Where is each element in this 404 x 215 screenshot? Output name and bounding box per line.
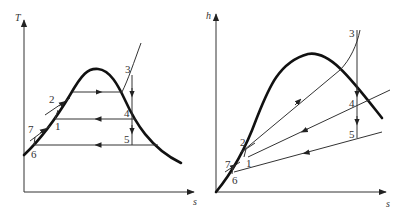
s-axis-label: s <box>193 196 197 207</box>
hs-diagram: h s 2 1 7 6 3 4 5 <box>206 10 390 209</box>
point-7-right: 7 <box>225 158 231 170</box>
point-7: 7 <box>28 123 34 135</box>
line-1-4-right <box>248 90 390 157</box>
point-4: 4 <box>124 107 130 119</box>
s-axis-label-right: s <box>386 198 390 209</box>
point-1: 1 <box>55 120 61 132</box>
point-2-right: 2 <box>240 136 246 148</box>
point-5-right: 5 <box>349 128 355 140</box>
point-2: 2 <box>49 93 55 105</box>
point-5: 5 <box>124 133 130 145</box>
t-axis-label: T <box>15 12 22 23</box>
saturation-dome <box>24 69 181 163</box>
point-1-right: 1 <box>246 157 252 169</box>
point-6-right: 6 <box>232 174 238 186</box>
point-3: 3 <box>125 63 131 75</box>
h-axis-label: h <box>206 10 211 21</box>
ts-diagram: T s 2 1 7 6 3 4 5 <box>15 12 197 207</box>
point-4-right: 4 <box>349 97 355 109</box>
point-6: 6 <box>31 148 37 160</box>
diagram-canvas: T s 2 1 7 6 3 4 5 h s <box>0 0 404 215</box>
point-3-right: 3 <box>349 27 355 39</box>
